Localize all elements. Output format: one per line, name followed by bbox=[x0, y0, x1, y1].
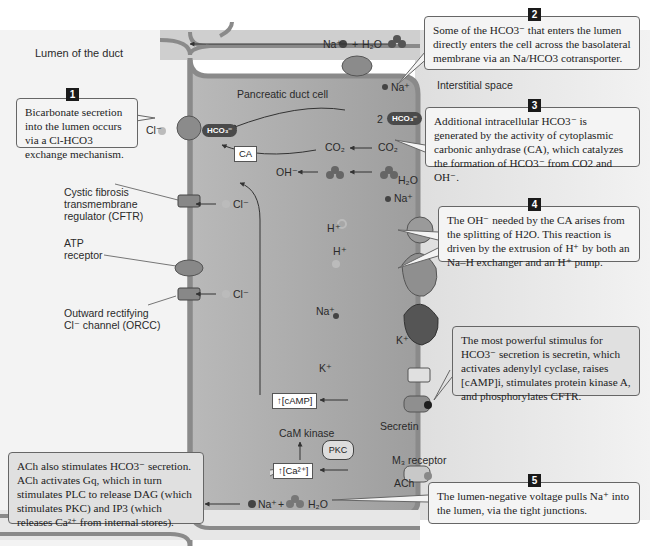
pkc-octagon: PKC bbox=[322, 440, 354, 460]
cam-kinase-label: CaM kinase bbox=[279, 427, 334, 439]
camp-box: ↑[cAMP] bbox=[272, 393, 317, 409]
callout-2-text: Some of the HCO3⁻ that enters the lumen … bbox=[433, 23, 631, 65]
orcc-label: Outward rectifying Cl⁻ channel (ORCC) bbox=[64, 307, 160, 331]
callout-5: The lumen-negative voltage pulls Na⁺ int… bbox=[428, 482, 640, 524]
k-pump-label: K⁺ bbox=[396, 334, 409, 346]
callout-5-text: The lumen-negative voltage pulls Na⁺ int… bbox=[437, 489, 631, 517]
h2o-bottom-label: H₂O bbox=[308, 498, 328, 510]
na-pump-label: Na⁺ bbox=[316, 305, 335, 317]
water-molecule-icon bbox=[388, 34, 406, 48]
callout-ach-text: ACh also stimulates HCO3⁻ secretion. ACh… bbox=[17, 459, 195, 529]
callout-1: Bicarbonate secretion into the lumen occ… bbox=[16, 98, 138, 148]
callout-secretin: The most powerful stimulus for HCO3⁻ sec… bbox=[452, 326, 640, 396]
water-molecule-outside-icon bbox=[380, 165, 398, 179]
lumen-label: Lumen of the duct bbox=[35, 47, 123, 60]
callout-ach: ACh also stimulates HCO3⁻ secretion. ACh… bbox=[8, 452, 204, 524]
callout-secretin-text: The most powerful stimulus for HCO3⁻ sec… bbox=[461, 333, 631, 403]
plus-bottom-label: + bbox=[278, 498, 284, 510]
m3-receptor-label: M₃ receptor bbox=[392, 454, 446, 466]
oh-label: OH⁻ bbox=[276, 166, 298, 178]
diagram-canvas: Lumen of the duct Pancreatic duct cell I… bbox=[0, 0, 650, 546]
h2o-outside-label: H₂O bbox=[398, 174, 418, 186]
two-label: 2 bbox=[377, 113, 383, 125]
ach-label: ACh bbox=[394, 477, 414, 489]
atp-receptor-label: ATP receptor bbox=[64, 237, 103, 261]
callout-3-number: 3 bbox=[528, 99, 541, 112]
na-bottom-label: Na⁺ bbox=[258, 498, 277, 510]
h-nhe-label: H⁺ bbox=[327, 222, 341, 234]
co2-inside-label: CO₂ bbox=[325, 141, 345, 153]
h2o-top-label: H₂O bbox=[362, 38, 382, 50]
h-pump-label: H⁺ bbox=[333, 245, 347, 257]
na-top-label: Na⁺ bbox=[323, 38, 342, 50]
co2-outside-label: CO₂ bbox=[378, 141, 398, 153]
cl-cftr-label: Cl⁻ bbox=[233, 198, 249, 210]
callout-2: Some of the HCO3⁻ that enters the lumen … bbox=[424, 16, 640, 70]
na-nhe-label: Na⁺ bbox=[394, 192, 413, 204]
cl-exchanger-label: Cl⁻ bbox=[146, 124, 162, 136]
callout-5-number: 5 bbox=[528, 474, 541, 487]
callout-3-text: Additional intracellular HCO3⁻ is genera… bbox=[434, 114, 631, 184]
k-channel-label: K⁺ bbox=[319, 362, 332, 374]
cftr-label: Cystic fibrosis transmembrane regulator … bbox=[64, 186, 143, 222]
callout-4: The OH⁻ needed by the CA arises from the… bbox=[438, 206, 640, 262]
ca2-box: ↑[Ca²⁺] bbox=[273, 463, 313, 479]
callout-2-number: 2 bbox=[528, 8, 541, 21]
ca-enzyme-box: CA bbox=[234, 146, 257, 162]
hco3-basolateral-pill: HCO₃⁻ bbox=[387, 112, 422, 125]
plus-top-label: + bbox=[352, 38, 358, 50]
callout-1-text: Bicarbonate secretion into the lumen occ… bbox=[25, 105, 129, 161]
na-basolateral-label: Na⁺ bbox=[391, 81, 410, 93]
callout-4-number: 4 bbox=[528, 198, 541, 211]
water-molecule-bottom-icon bbox=[286, 494, 304, 508]
callout-1-number: 1 bbox=[66, 88, 79, 101]
callout-3: Additional intracellular HCO3⁻ is genera… bbox=[425, 107, 640, 167]
cl-orcc-label: Cl⁻ bbox=[233, 288, 249, 300]
secretin-label: Secretin bbox=[380, 420, 419, 432]
water-molecule-inside-icon bbox=[326, 165, 344, 179]
cell-label: Pancreatic duct cell bbox=[237, 88, 328, 100]
callout-4-text: The OH⁻ needed by the CA arises from the… bbox=[447, 213, 631, 269]
interstitial-label: Interstitial space bbox=[437, 79, 513, 91]
hco3-intracellular-pill: HCO₃⁻ bbox=[202, 124, 237, 137]
